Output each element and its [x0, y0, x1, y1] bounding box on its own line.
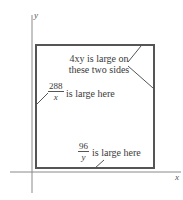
leader-left-side	[37, 93, 48, 104]
annotation-4xy: 4xy is large on these two sides	[68, 53, 130, 75]
annotation-4xy-line1: 4xy is large on	[68, 53, 130, 64]
y-axis-label: y	[34, 10, 38, 20]
fraction-96-over-y: 96 y	[78, 141, 89, 162]
fraction-numerator: 96	[78, 141, 89, 152]
leader-bottom-side	[95, 160, 104, 168]
annotation-96y-text: is large here	[92, 147, 141, 158]
fraction-numerator: 288	[48, 81, 64, 92]
x-axis-label: x	[175, 172, 179, 182]
annotation-4xy-line2: these two sides	[68, 64, 130, 75]
leader-right-side	[128, 66, 153, 88]
diagram-canvas	[0, 0, 183, 200]
annotation-288x-text: is large here	[66, 88, 115, 99]
fraction-denominator: x	[54, 92, 58, 102]
fraction-288-over-x: 288 x	[48, 81, 64, 102]
fraction-denominator: y	[82, 152, 86, 162]
